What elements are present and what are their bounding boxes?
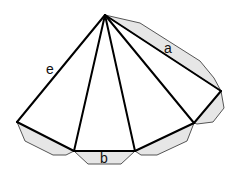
label-e: e (46, 61, 54, 77)
edge-a (105, 15, 221, 91)
edge-radial-2 (105, 15, 135, 151)
pyramid-net-diagram: e a b (0, 0, 234, 174)
label-a: a (164, 40, 172, 56)
label-b: b (100, 150, 108, 166)
